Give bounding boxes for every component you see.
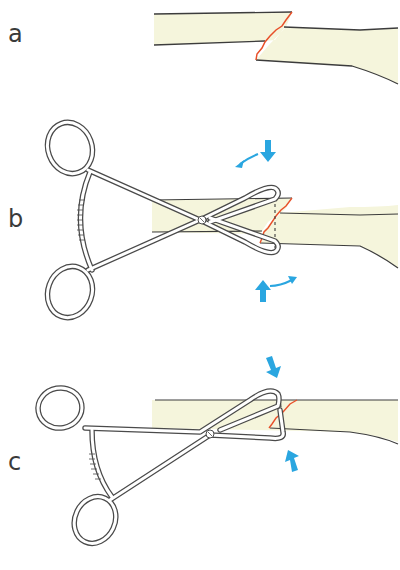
panel-c: c bbox=[0, 340, 400, 570]
forceps-reduction-diagram bbox=[0, 110, 400, 340]
panel-b: b bbox=[0, 110, 400, 340]
forceps-clamped-diagram bbox=[0, 340, 400, 570]
fractured-bone-diagram bbox=[0, 0, 400, 110]
panel-a: a bbox=[0, 0, 400, 110]
